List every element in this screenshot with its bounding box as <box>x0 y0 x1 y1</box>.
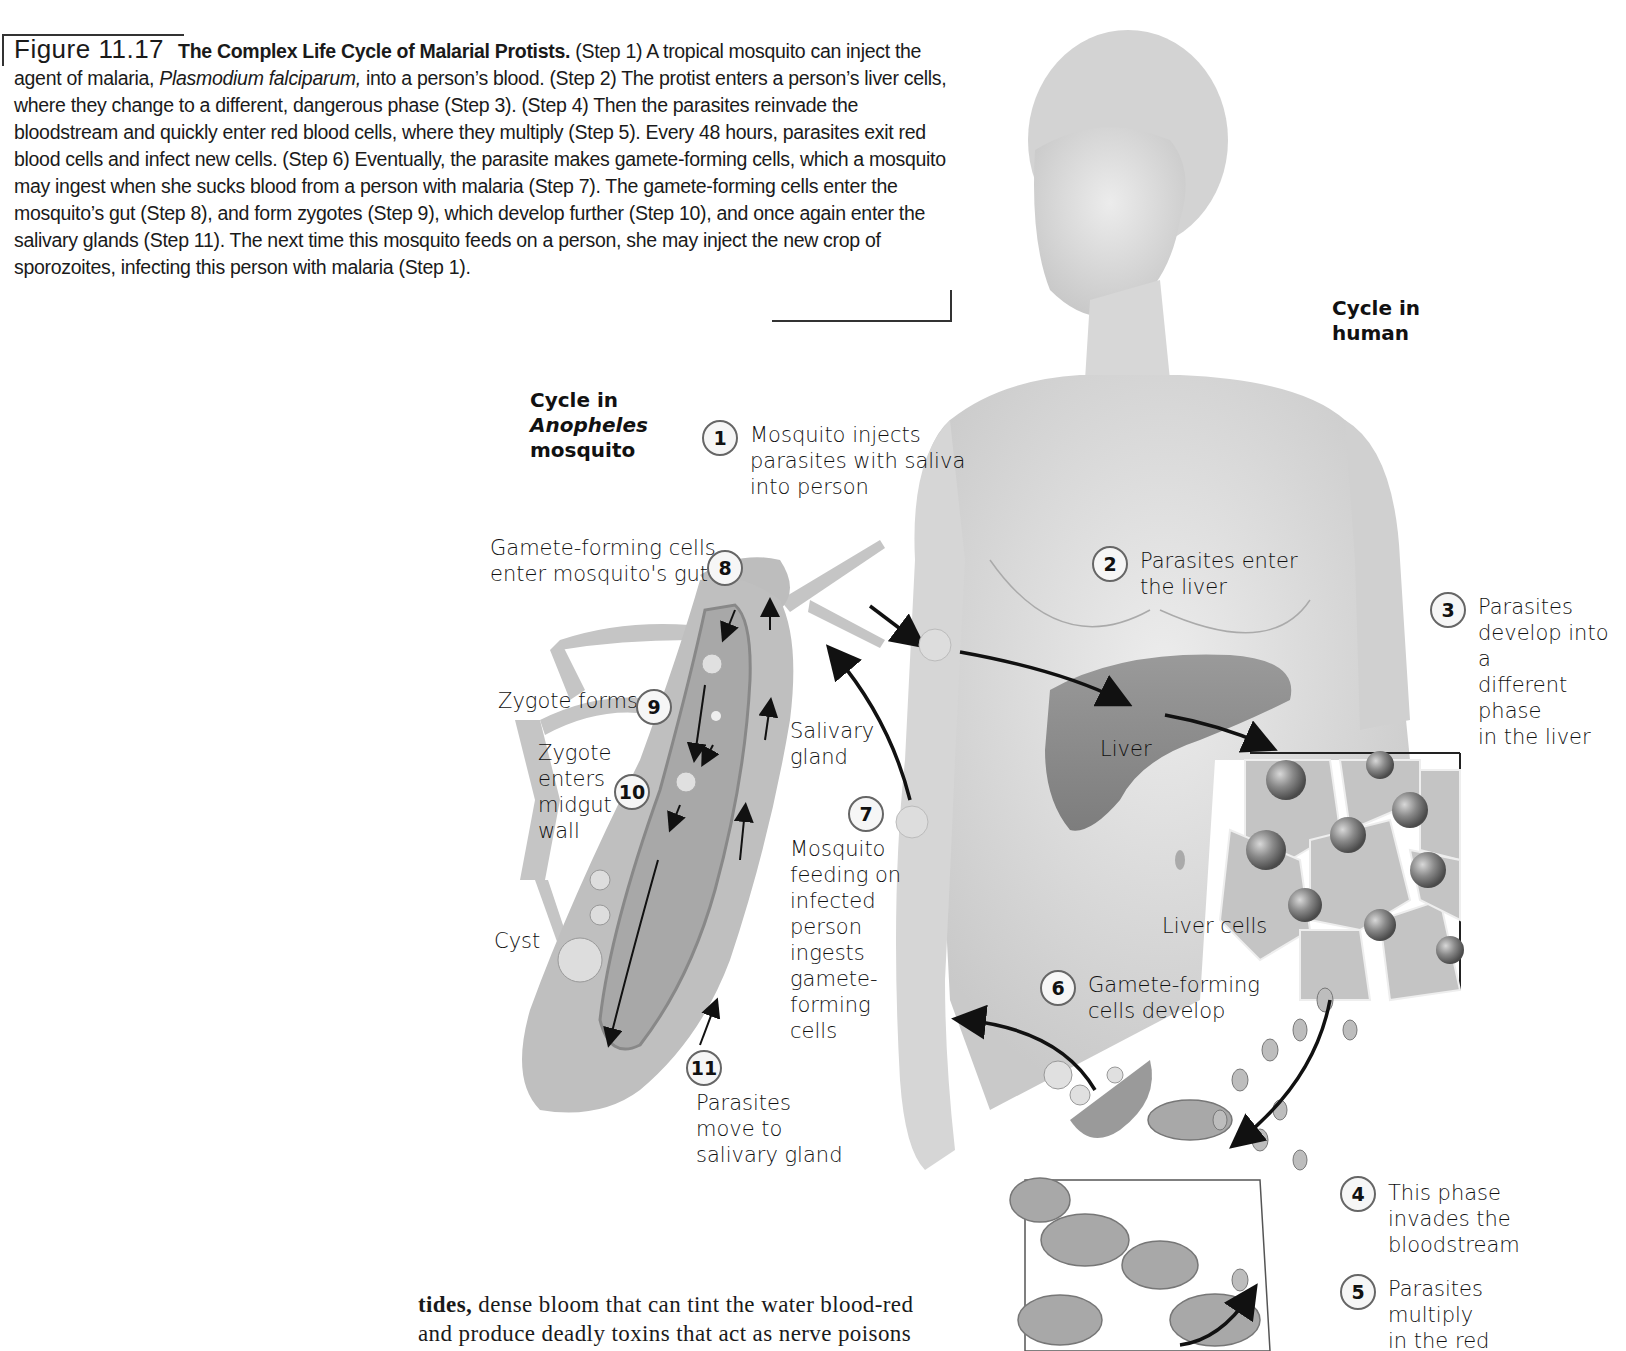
step-8-badge: 8 <box>707 550 743 586</box>
step-11-line: move to <box>696 1116 842 1142</box>
step-8-label: Gamete-forming cells enter mosquito's gu… <box>490 535 716 587</box>
step-5-line: multiply <box>1388 1302 1489 1328</box>
step-9-badge: 9 <box>636 689 672 725</box>
heading-human-cycle: Cycle in human <box>1332 296 1420 346</box>
step-4-badge: 4 <box>1340 1176 1376 1212</box>
step-9-label: Zygote forms <box>498 688 638 714</box>
step-2-badge: 2 <box>1092 546 1128 582</box>
step-3-line: different phase <box>1478 672 1626 724</box>
step-4-line: invades the <box>1388 1206 1520 1232</box>
step-5-badge: 5 <box>1340 1274 1376 1310</box>
cyst-label: Cyst <box>494 928 540 954</box>
step-5-line: in the red <box>1388 1328 1489 1351</box>
step-10-label: Zygote enters midgut wall <box>538 740 612 844</box>
salivary-gland-line: Salivary <box>790 718 874 744</box>
step-7-line: forming <box>790 992 901 1018</box>
body-paragraph: tides, dense bloom that can tint the wat… <box>418 1290 998 1348</box>
step-6-badge: 6 <box>1040 970 1076 1006</box>
liver-cells-inset <box>1220 751 1464 1000</box>
step-1-label: Mosquito injects parasites with saliva i… <box>750 422 965 500</box>
step-1-line: parasites with saliva <box>750 448 965 474</box>
step-10-line: enters <box>538 766 612 792</box>
step-6-line: Gamete-forming <box>1088 972 1260 998</box>
step-6-label: Gamete-forming cells develop <box>1088 972 1260 1024</box>
step-7-line: Mosquito <box>790 836 901 862</box>
step-3-badge: 3 <box>1430 592 1466 628</box>
heading-mosquito-line3: mosquito <box>530 438 648 463</box>
bite-site-1 <box>919 629 951 661</box>
body-line-2: and produce deadly toxins that act as ne… <box>418 1321 911 1346</box>
step-8-line: Gamete-forming cells <box>490 535 716 561</box>
step-4-line: This phase <box>1388 1180 1520 1206</box>
step-4-label: This phase invades the bloodstream <box>1388 1180 1520 1258</box>
step-2-line: the liver <box>1140 574 1298 600</box>
liver-label: Liver <box>1100 736 1152 762</box>
step-11-line: salivary gland <box>696 1142 842 1168</box>
heading-mosquito-cycle: Cycle in Anopheles mosquito <box>530 388 648 463</box>
liver-cells-label: Liver cells <box>1162 913 1267 939</box>
step-10-line: midgut <box>538 792 612 818</box>
step-8-line: enter mosquito's gut <box>490 561 716 587</box>
step-2-label: Parasites enter the liver <box>1140 548 1298 600</box>
body-line-1: dense bloom that can tint the water bloo… <box>472 1292 913 1317</box>
heading-mosquito-line1: Cycle in <box>530 388 648 413</box>
step-1-line: Mosquito injects <box>750 422 965 448</box>
step-7-line: feeding on <box>790 862 901 888</box>
step-4-line: bloodstream <box>1388 1232 1520 1258</box>
gametocytes <box>1044 1060 1152 1138</box>
step-5-label: Parasites multiply in the red <box>1388 1276 1489 1351</box>
step-3-line: develop into a <box>1478 620 1626 672</box>
step-7-badge: 7 <box>848 796 884 832</box>
bite-site-7 <box>896 806 928 838</box>
step-1-line: into person <box>750 474 965 500</box>
step-1-badge: 1 <box>702 420 738 456</box>
step-11-line: Parasites <box>696 1090 842 1116</box>
step-10-line: Zygote <box>538 740 612 766</box>
step-7-label: Mosquito feeding on infected person inge… <box>790 836 901 1044</box>
step-10-line: wall <box>538 818 612 844</box>
step-10-badge: 10 <box>614 774 650 810</box>
step-5-line: Parasites <box>1388 1276 1489 1302</box>
step-11-badge: 11 <box>686 1050 722 1086</box>
step-11-label: Parasites move to salivary gland <box>696 1090 842 1168</box>
salivary-gland-line: gland <box>790 744 874 770</box>
step-7-line: person <box>790 914 901 940</box>
step-3-line: in the liver <box>1478 724 1626 750</box>
heading-mosquito-line2: Anopheles <box>530 413 648 438</box>
step-3-label: Parasites develop into a different phase… <box>1478 594 1626 750</box>
step-7-line: gamete- <box>790 966 901 992</box>
step-7-line: infected <box>790 888 901 914</box>
red-blood-cells <box>1010 1100 1270 1351</box>
step-2-line: Parasites enter <box>1140 548 1298 574</box>
step-6-line: cells develop <box>1088 998 1260 1024</box>
heading-human-line2: human <box>1332 321 1420 346</box>
step-7-line: cells <box>790 1018 901 1044</box>
step-7-line: ingests <box>790 940 901 966</box>
heading-human-line1: Cycle in <box>1332 296 1420 321</box>
salivary-gland-label: Salivary gland <box>790 718 874 770</box>
step-3-line: Parasites <box>1478 594 1626 620</box>
body-bold-term: tides, <box>418 1292 472 1317</box>
